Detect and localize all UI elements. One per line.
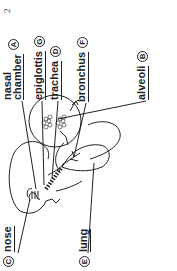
letter-g-circle: G [34, 36, 45, 47]
label-epiglottis: epiglottis G [33, 36, 46, 100]
label-alveoli: alveoli B [136, 51, 149, 100]
bronchus-label: bronchus [76, 52, 89, 102]
epiglottis-label: epiglottis [33, 51, 46, 100]
letter-e-circle: E [79, 256, 90, 267]
nasal-chamber-label: nasal chamber [2, 54, 24, 100]
label-bronchus: bronchus F [76, 37, 89, 102]
letter-f-circle: F [77, 37, 88, 48]
label-lung: E lung [78, 229, 91, 267]
alveoli-label: alveoli [136, 66, 149, 100]
trachea-label: trachea [49, 61, 62, 100]
letter-b-circle: B [137, 51, 148, 62]
letter-c-circle: C [3, 256, 14, 267]
label-trachea: trachea D [49, 46, 62, 100]
label-nose: C nose [2, 226, 15, 267]
nasal-chamber-line2: chamber [12, 54, 22, 100]
label-nasal-chamber: nasal chamber A [2, 39, 24, 100]
diagram-stage: 2 [0, 0, 177, 271]
letter-a-circle: A [8, 39, 19, 50]
nose-label: nose [2, 226, 15, 252]
letter-d-circle: D [50, 46, 61, 57]
lung-label: lung [78, 229, 91, 252]
